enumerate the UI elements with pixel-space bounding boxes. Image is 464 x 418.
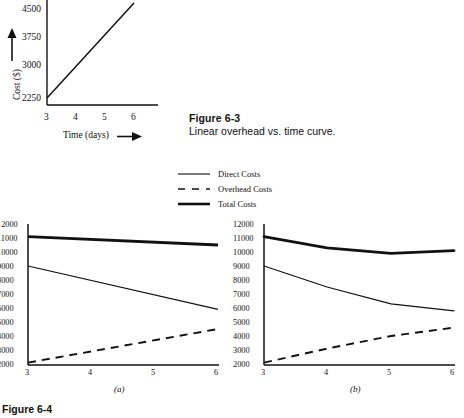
figure-6-4b-x-tick-5: 5 xyxy=(387,369,391,377)
figure-6-4b-y-tick-8000: 8000 xyxy=(233,277,250,285)
figure-6-4a-y-tick-10000: 10000 xyxy=(0,249,18,257)
figure-6-3-caption-number: Figure 6-3 xyxy=(189,112,449,125)
figure-6-3-y-tick-4500: 4500 xyxy=(22,5,41,15)
figure-6-4-legend: Direct Costs Overhead Costs Total Costs xyxy=(176,168,336,212)
legend-label-direct-costs: Direct Costs xyxy=(218,168,260,180)
figure-6-4b: 12000 11000 10000 9000 8000 7000 6000 50… xyxy=(232,214,464,404)
figure-6-4b-y-tick-9000: 9000 xyxy=(233,263,250,271)
x-axis-arrow-icon xyxy=(117,132,143,142)
figure-6-4a: 12000 11000 10000 9000 8000 7000 6000 50… xyxy=(0,214,232,404)
figure-6-3-x-tick-6: 6 xyxy=(131,113,136,123)
figure-6-4b-overhead-costs-line xyxy=(264,328,454,363)
figure-6-3-overhead-line xyxy=(47,3,134,98)
figure-6-4b-y-tick-2000: 2000 xyxy=(233,361,250,369)
figure-6-4a-y-tick-6000: 6000 xyxy=(0,305,14,313)
figure-6-4a-plot xyxy=(27,224,223,376)
figure-6-4b-y-tick-11000: 11000 xyxy=(233,235,253,243)
figure-6-4a-panel-label: (a) xyxy=(114,384,125,394)
figure-6-4a-x-tick-6: 6 xyxy=(214,369,218,377)
legend-swatch-solid-thin-icon xyxy=(176,168,212,180)
y-axis-arrow-icon xyxy=(6,28,18,62)
figure-6-4a-y-tick-12000: 12000 xyxy=(0,221,18,229)
figure-6-4a-y-tick-4000: 4000 xyxy=(0,333,14,341)
figure-6-4a-y-tick-5000: 5000 xyxy=(0,319,14,327)
figure-6-4b-x-tick-4: 4 xyxy=(324,369,328,377)
figure-6-4b-total-costs-line xyxy=(264,237,454,254)
figure-6-4a-overhead-costs-line xyxy=(28,329,218,363)
figure-6-4b-y-tick-7000: 7000 xyxy=(233,291,250,299)
figure-page: Cost ($) 4500 3750 3000 2250 3 4 5 6 Tim… xyxy=(0,0,464,418)
legend-swatch-dashed-icon xyxy=(176,183,212,195)
figure-6-4a-y-tick-9000: 9000 xyxy=(0,263,14,271)
figure-6-4a-direct-costs-line xyxy=(28,266,218,309)
figure-6-4a-total-costs-line xyxy=(28,237,218,245)
figure-6-3-y-tick-3750: 3750 xyxy=(22,33,41,43)
legend-swatch-solid-thick-icon xyxy=(176,198,212,210)
figure-6-3-x-tick-3: 3 xyxy=(44,113,49,123)
figure-6-4b-x-tick-6: 6 xyxy=(450,369,454,377)
figure-6-4b-x-tick-3: 3 xyxy=(261,369,265,377)
figure-6-4a-x-tick-5: 5 xyxy=(151,369,155,377)
figure-6-4b-y-tick-12000: 12000 xyxy=(233,221,254,229)
figure-6-3-y-tick-2250: 2250 xyxy=(22,94,41,104)
figure-6-4a-y-tick-8000: 8000 xyxy=(0,277,14,285)
figure-6-4b-y-tick-10000: 10000 xyxy=(233,249,254,257)
figure-6-3-x-tick-5: 5 xyxy=(102,113,107,123)
figure-6-4b-y-tick-5000: 5000 xyxy=(233,319,250,327)
figure-6-3-x-axis-title: Time (days) xyxy=(63,131,109,141)
figure-6-3-x-tick-4: 4 xyxy=(73,113,78,123)
figure-6-4-caption-number: Figure 6-4 xyxy=(2,404,52,418)
legend-label-total-costs: Total Costs xyxy=(218,198,256,210)
figure-6-4a-y-tick-3000: 3000 xyxy=(0,347,14,355)
figure-6-4b-y-tick-4000: 4000 xyxy=(233,333,250,341)
figure-6-4a-y-tick-7000: 7000 xyxy=(0,291,14,299)
figure-6-4a-x-tick-4: 4 xyxy=(88,369,92,377)
figure-6-4b-y-tick-6000: 6000 xyxy=(233,305,250,313)
figure-6-4b-direct-costs-line xyxy=(264,266,454,311)
figure-6-3-y-tick-3000: 3000 xyxy=(22,61,41,71)
figure-6-3-caption-text: Linear overhead vs. time curve. xyxy=(189,125,449,138)
figure-6-4a-y-tick-11000: 11000 xyxy=(0,235,17,243)
figure-6-4a-x-tick-3: 3 xyxy=(25,369,29,377)
figure-6-3-caption: Figure 6-3 Linear overhead vs. time curv… xyxy=(189,112,449,138)
legend-label-overhead-costs: Overhead Costs xyxy=(218,183,272,195)
figure-6-3-plot xyxy=(46,0,162,112)
figure-6-4a-y-tick-2000: 2000 xyxy=(0,361,14,369)
figure-6-3: Cost ($) 4500 3750 3000 2250 3 4 5 6 Tim… xyxy=(0,0,200,160)
figure-6-4b-plot xyxy=(263,224,459,376)
figure-6-4b-y-tick-3000: 3000 xyxy=(233,347,250,355)
figure-6-4b-panel-label: (b) xyxy=(350,384,361,394)
